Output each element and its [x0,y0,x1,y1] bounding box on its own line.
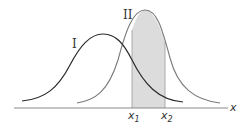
x2-label: x2 [161,110,173,124]
x1-label: x1 [128,110,140,124]
curve-I-label: I [72,38,77,50]
diagram-canvas: I II x x1 x2 [0,0,249,124]
x2-label-sub: 2 [168,115,173,124]
x-axis-label: x [230,102,237,113]
curve-II-label: II [123,9,132,21]
x1-label-sub: 1 [135,115,140,124]
